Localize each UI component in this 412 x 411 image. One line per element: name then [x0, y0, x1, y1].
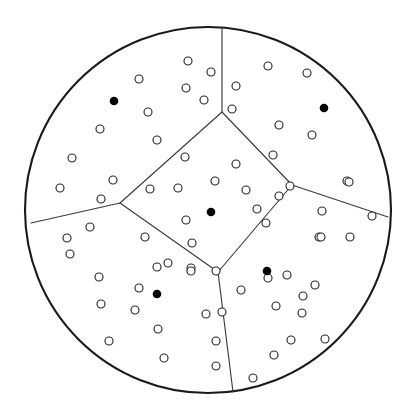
- open-point-marker: [253, 205, 261, 213]
- open-point-marker: [200, 96, 208, 104]
- open-point-marker: [264, 62, 272, 70]
- open-point-marker: [242, 186, 250, 194]
- open-point-marker: [202, 310, 210, 318]
- open-point-marker: [270, 351, 278, 359]
- seed-point-top-left: [110, 97, 119, 106]
- open-point-marker: [86, 223, 94, 231]
- open-point-marker: [318, 207, 326, 215]
- open-point-marker: [135, 284, 143, 292]
- open-point-marker: [232, 160, 240, 168]
- open-point-marker: [154, 325, 162, 333]
- open-point-marker: [345, 178, 353, 186]
- open-point-marker: [212, 362, 220, 370]
- seed-point-bottom-left: [153, 290, 162, 299]
- open-point-marker: [63, 234, 71, 242]
- open-point-marker: [174, 184, 182, 192]
- open-point-marker: [272, 302, 280, 310]
- open-point-marker: [96, 125, 104, 133]
- open-point-marker: [368, 212, 376, 220]
- open-point-marker: [164, 259, 172, 267]
- seed-point-center: [207, 208, 216, 217]
- open-point-marker: [249, 374, 257, 382]
- open-point-marker: [153, 263, 161, 271]
- open-point-marker: [135, 75, 143, 83]
- open-point-marker: [188, 239, 196, 247]
- open-point-marker: [317, 233, 325, 241]
- open-point-marker: [187, 267, 195, 275]
- open-point-marker: [286, 182, 294, 190]
- open-point-marker: [232, 82, 240, 90]
- open-point-marker: [207, 68, 215, 76]
- open-point-marker: [346, 233, 354, 241]
- open-point-marker: [262, 219, 270, 227]
- open-point-marker: [95, 273, 103, 281]
- open-point-marker: [303, 69, 311, 77]
- open-point-marker: [131, 306, 139, 314]
- open-point-marker: [299, 292, 307, 300]
- open-point-marker: [66, 250, 74, 258]
- open-point-marker: [308, 131, 316, 139]
- open-point-marker: [97, 195, 105, 203]
- open-point-marker: [211, 177, 219, 185]
- open-point-marker: [275, 192, 283, 200]
- open-point-marker: [56, 184, 64, 192]
- open-point-marker: [181, 153, 189, 161]
- open-point-marker: [287, 336, 295, 344]
- open-point-marker: [321, 335, 329, 343]
- voronoi-figure: [0, 0, 412, 411]
- open-point-marker: [264, 274, 272, 282]
- open-point-marker: [160, 354, 168, 362]
- open-point-marker: [109, 176, 117, 184]
- seed-point-bottom-right: [263, 267, 272, 276]
- voronoi-svg: [0, 0, 412, 411]
- open-point-marker: [105, 337, 113, 345]
- open-point-marker: [298, 309, 306, 317]
- open-point-marker: [311, 281, 319, 289]
- open-point-marker: [153, 136, 161, 144]
- open-point-marker: [212, 267, 220, 275]
- open-point-marker: [218, 308, 226, 316]
- open-point-marker: [97, 300, 105, 308]
- open-point-marker: [283, 271, 291, 279]
- open-point-marker: [269, 151, 277, 159]
- seed-point-top-right: [320, 104, 329, 113]
- open-point-marker: [182, 84, 190, 92]
- open-point-marker: [237, 286, 245, 294]
- open-point-marker: [141, 233, 149, 241]
- open-point-marker: [212, 337, 220, 345]
- open-point-marker: [144, 108, 152, 116]
- open-point-marker: [146, 185, 154, 193]
- open-point-marker: [184, 57, 192, 65]
- open-point-marker: [68, 154, 76, 162]
- open-point-marker: [228, 105, 236, 113]
- open-point-marker: [182, 216, 190, 224]
- open-point-marker: [275, 121, 283, 129]
